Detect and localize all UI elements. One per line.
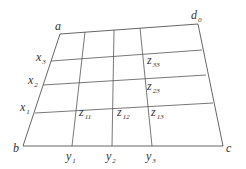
z11-label: z11	[78, 105, 91, 121]
x-grid-lines	[35, 50, 213, 113]
corner-d0-label: d0	[191, 8, 202, 24]
y2-label: y2	[105, 149, 116, 165]
y3-label: y3	[145, 149, 156, 165]
corner-c-label: c	[226, 141, 232, 155]
y1-line	[72, 32, 85, 146]
corner-b-label: b	[13, 141, 19, 155]
x3-label: x3	[35, 50, 46, 66]
grid-diagram: x3x2x1y1y2y3ad0bcz33z23z13z11z12	[0, 0, 246, 169]
x2-label: x2	[27, 73, 38, 89]
x3-line	[51, 50, 202, 61]
z33-label: z33	[146, 53, 160, 69]
x1-line	[35, 103, 213, 113]
z23-label: z23	[146, 79, 160, 95]
corner-a-label: a	[55, 19, 61, 33]
y-grid-lines	[72, 28, 152, 146]
y1-label: y1	[65, 149, 76, 165]
x2-line	[43, 75, 206, 85]
y2-line	[112, 30, 114, 146]
z13-label: z13	[150, 105, 164, 121]
quadrilateral-outline	[23, 24, 223, 146]
x1-label: x1	[19, 100, 30, 116]
